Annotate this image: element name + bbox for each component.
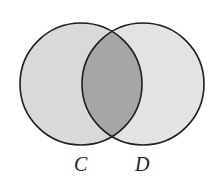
- set-d-label: D: [135, 154, 149, 174]
- venn-diagram: [0, 0, 218, 181]
- set-c-label: C: [74, 154, 87, 174]
